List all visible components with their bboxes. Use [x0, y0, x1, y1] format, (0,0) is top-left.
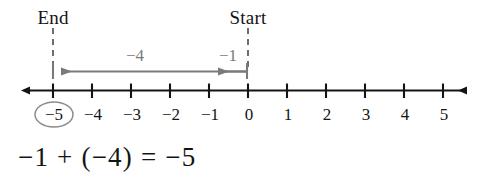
- tick-label-2: 2: [323, 106, 332, 123]
- tick-label-minus-1: −1: [201, 106, 219, 123]
- tick-label-1: 1: [284, 106, 293, 123]
- tick-label-minus-4: −4: [84, 106, 102, 123]
- tick-label-minus-3: −3: [123, 106, 141, 123]
- endpoint-label-start: Start: [230, 8, 267, 27]
- jump-arrow-minus-4: [53, 63, 247, 79]
- tick-label-0: 0: [245, 106, 254, 123]
- tick-label-3: 3: [362, 106, 371, 123]
- jump-label-minus-4: −4: [126, 47, 144, 64]
- number-line-figure: End Start −4 −1 −5 −4 −3 −2 −1 0 1 2 3 4…: [0, 0, 492, 186]
- tick-label-minus-2: −2: [162, 106, 180, 123]
- tick-label-minus-5: −5: [45, 106, 63, 123]
- tick-label-4: 4: [401, 106, 410, 123]
- equation-text: −1 + (−4) = −5: [18, 144, 196, 171]
- endpoint-label-end: End: [37, 8, 68, 27]
- jump-label-minus-1: −1: [219, 47, 237, 64]
- tick-label-5: 5: [440, 106, 449, 123]
